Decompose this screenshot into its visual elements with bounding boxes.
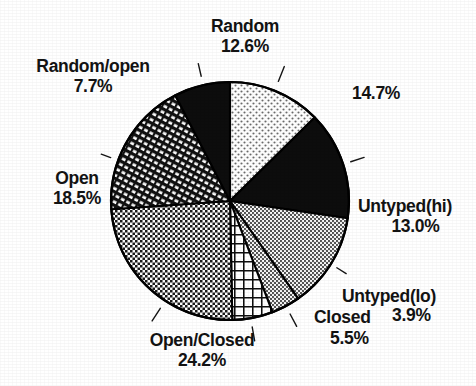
slice-label-closed-name: Closed [314,307,394,327]
slice-label-unnamed-percent: 14.7% [352,83,432,103]
leader-line [101,154,110,157]
slice-label-closed: Closed [314,307,394,327]
leader-line [198,64,201,77]
slice-label-open-closed-name: Open/Closed [122,330,282,350]
slice-label-untyped-lo: Untyped(lo) [342,286,464,306]
pie-slices-group [111,82,349,320]
pie-slice [111,201,232,320]
slice-label-random-open-percent: 7.7% [18,76,168,96]
slice-label-open-percent: 18.5% [32,188,122,208]
leader-line [290,314,297,326]
leader-line [337,268,346,274]
pie-chart: Random 12.6% Random/open 7.7% Open 18.5%… [0,0,476,386]
slice-label-open-closed-percent: 24.2% [122,350,282,370]
slice-label-untyped-hi: Untyped(hi) 13.0% [358,196,473,236]
slice-label-open: Open 18.5% [32,168,122,208]
slice-label-closed-percent-wrap: 5.5% [330,328,390,348]
slice-label-untyped-hi-percent: 13.0% [358,216,473,236]
leader-line [351,157,364,161]
slice-label-open-name: Open [32,168,122,188]
slice-label-untyped-lo-percent: 3.9% [392,305,452,325]
slice-label-closed-percent: 5.5% [330,328,390,348]
slice-label-random: Random 12.6% [190,16,300,56]
slice-label-random-name: Random [190,16,300,36]
slice-label-untyped-lo-percent-wrap: 3.9% [392,305,452,325]
leader-line [278,67,284,82]
slice-label-open-closed: Open/Closed 24.2% [122,330,282,370]
slice-label-unnamed: 14.7% [352,83,432,103]
slice-label-untyped-hi-name: Untyped(hi) [358,196,473,216]
slice-label-untyped-lo-name: Untyped(lo) [342,286,464,306]
slice-label-random-open: Random/open 7.7% [18,56,168,96]
slice-label-random-percent: 12.6% [190,36,300,56]
slice-label-random-open-name: Random/open [18,56,168,76]
leader-line [152,308,160,321]
